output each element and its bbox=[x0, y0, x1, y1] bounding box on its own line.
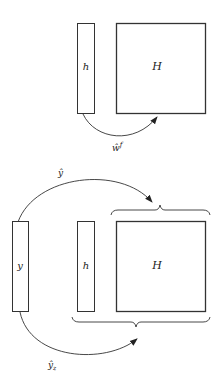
bottom-panel: ŷ y h H ŷz bbox=[13, 168, 211, 371]
y-label: y bbox=[16, 260, 23, 271]
top-arrow-yhat-label: ŷ bbox=[57, 168, 64, 178]
top-arrow-yhat bbox=[18, 180, 152, 222]
bottom-h-label: h bbox=[83, 260, 89, 271]
bottom-arrow-label: ŷz bbox=[47, 360, 57, 371]
top-H-label: H bbox=[151, 60, 162, 73]
top-arrow-label: ŵf bbox=[112, 141, 124, 153]
top-arrow-wf bbox=[83, 114, 157, 136]
top-h-label: h bbox=[83, 61, 89, 72]
bottom-brace bbox=[72, 317, 210, 327]
bottom-H-label: H bbox=[151, 259, 162, 272]
bottom-arrow-yz bbox=[20, 312, 137, 355]
diagram-canvas: h H ŵf ŷ y h H ŷz bbox=[0, 0, 221, 387]
top-panel: h H ŵf bbox=[78, 24, 206, 154]
top-brace bbox=[111, 205, 210, 215]
